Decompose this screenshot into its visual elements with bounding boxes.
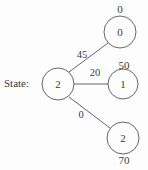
node-child-0-reward: 0 bbox=[117, 4, 123, 15]
edge-weight-child-2: 0 bbox=[78, 110, 83, 121]
edge-weight-child-1: 20 bbox=[90, 68, 101, 79]
node-child-0-value: 0 bbox=[117, 27, 123, 38]
state-transition-diagram: State: 2 0 0 45 50 1 20 2 70 0 bbox=[0, 0, 148, 170]
edge-weight-child-0: 45 bbox=[77, 50, 88, 61]
node-child-1-value: 1 bbox=[120, 79, 126, 90]
node-root-value: 2 bbox=[55, 79, 61, 90]
edge-root-to-child-0 bbox=[69, 43, 108, 72]
state-caption: State: bbox=[4, 78, 29, 89]
edge-root-to-child-2 bbox=[69, 97, 110, 128]
node-child-2-value: 2 bbox=[120, 133, 126, 144]
node-child-2-reward: 70 bbox=[119, 155, 130, 166]
node-child-1-reward: 50 bbox=[119, 60, 130, 71]
